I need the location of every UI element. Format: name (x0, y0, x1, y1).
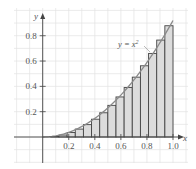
riemann-bar (157, 40, 165, 137)
y-tick-label: 0.2 (25, 107, 36, 117)
riemann-bar (100, 113, 108, 137)
y-tick-label: 0.4 (25, 81, 37, 91)
riemann-bar (67, 133, 75, 137)
y-tick-label: 0.8 (25, 31, 37, 41)
x-tick-label: 1.0 (167, 141, 179, 151)
riemann-bar (75, 129, 83, 137)
riemann-bar (116, 97, 124, 137)
y-axis-arrow-icon (40, 13, 45, 19)
x-axis-label: x (182, 133, 187, 143)
riemann-bar (92, 119, 100, 137)
x-tick-label: 0.8 (141, 141, 153, 151)
riemann-bar (132, 77, 140, 137)
x-tick-label: 0.6 (115, 141, 127, 151)
riemann-bar (140, 66, 148, 137)
x-tick-label: 0.4 (89, 141, 101, 151)
x-tick-label: 0.2 (63, 141, 74, 151)
y-axis-label: y (33, 11, 38, 21)
riemann-bar (124, 88, 132, 137)
bars (51, 26, 173, 137)
riemann-bar (149, 53, 157, 137)
riemann-bar (165, 26, 173, 137)
curve-label: y = x2 (117, 39, 139, 49)
riemann-sum-chart: 0.20.40.60.81.00.20.40.60.8 x y y = x2 (0, 0, 196, 169)
y-tick-label: 0.6 (25, 56, 37, 66)
riemann-bar (108, 105, 116, 137)
riemann-bar (83, 125, 91, 137)
